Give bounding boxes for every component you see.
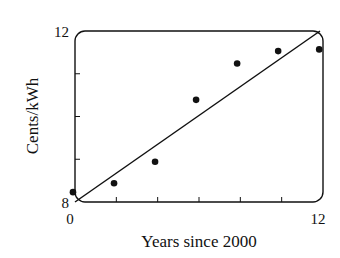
- ticks: [75, 74, 282, 202]
- data-point: [275, 48, 282, 55]
- x-axis-label: Years since 2000: [141, 232, 256, 251]
- chart: 12 8 0 12 Years since 2000 Cents/kWh: [0, 0, 340, 258]
- x-tick-label-min: 0: [66, 211, 74, 227]
- x-tick-label-max: 12: [311, 211, 326, 227]
- y-tick-label-max: 12: [54, 24, 69, 40]
- data-point: [193, 97, 200, 104]
- data-point: [70, 189, 77, 196]
- data-points: [70, 46, 323, 195]
- data-point: [111, 180, 118, 187]
- data-point: [316, 46, 323, 53]
- fit-line: [75, 31, 320, 202]
- data-point: [152, 159, 159, 166]
- data-point: [234, 60, 241, 67]
- y-axis-label: Cents/kWh: [23, 77, 42, 154]
- y-tick-label-min: 8: [62, 195, 70, 211]
